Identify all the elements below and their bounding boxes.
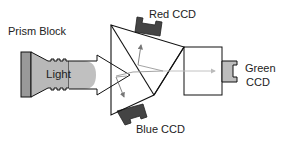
red-ccd-label: Red CCD [149,8,196,21]
ray-to-red-a [138,65,163,71]
light-beam [69,61,96,89]
light-source [21,52,130,97]
ray-center [133,71,163,72]
blue-ccd [117,104,147,125]
green-ccd [222,61,237,82]
ray-to-blue [116,77,124,97]
light-back-plate [21,52,31,97]
green-ccd-label-line1: Green [245,62,276,75]
ray-to-red [138,45,141,65]
prism-block-label: Prism Block [8,25,66,38]
green-ccd-label-line2: CCD [246,76,270,89]
blue-ccd-label: Blue CCD [136,123,185,136]
ray-to-blue-branch [116,76,127,77]
ray-incoming [116,72,133,76]
light-label: Light [46,68,71,81]
